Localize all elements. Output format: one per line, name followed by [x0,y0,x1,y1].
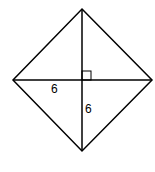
vertical-segment-label: 6 [85,102,92,116]
horizontal-segment-label: 6 [51,82,58,96]
rhombus-diagram: 6 6 [0,0,155,172]
right-angle-marker [82,71,91,80]
